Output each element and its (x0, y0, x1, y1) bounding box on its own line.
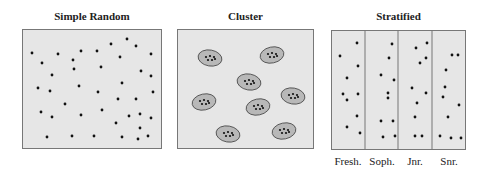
sample-dot (442, 96, 445, 99)
cluster-group (236, 72, 262, 92)
sample-dot (419, 62, 422, 65)
sample-dot (294, 97, 296, 99)
sample-dot (207, 100, 209, 102)
sample-dot (359, 132, 362, 135)
sample-dot (213, 56, 215, 58)
sample-dot (253, 82, 255, 84)
sample-dot (71, 135, 74, 138)
sample-dot (41, 62, 44, 65)
sample-dot (93, 135, 96, 138)
sample-dot (394, 135, 397, 138)
sample-dot (276, 55, 278, 57)
sample-dot (150, 53, 153, 56)
sample-dot (439, 135, 442, 138)
sample-dot (232, 134, 234, 136)
sample-dot (292, 93, 294, 95)
sample-dot (281, 132, 283, 134)
sample-dot (257, 104, 259, 106)
cluster-blob (271, 121, 298, 142)
sample-dot (259, 108, 261, 110)
sample-dot (139, 113, 142, 116)
sample-dot (380, 74, 383, 77)
sample-dot (121, 136, 124, 139)
sample-dot (393, 79, 396, 82)
sample-dot (139, 127, 142, 130)
sample-dot (425, 57, 428, 60)
sample-dot (356, 115, 359, 118)
sample-dot (126, 38, 129, 41)
cluster-group (197, 48, 223, 68)
sample-dot (285, 132, 287, 134)
sample-dot (425, 92, 428, 95)
sample-dot (252, 80, 254, 82)
sample-dot (460, 137, 463, 140)
sample-dot (250, 83, 252, 85)
sample-dot (346, 126, 349, 129)
cluster-blob (197, 48, 223, 68)
cluster-blob (236, 72, 262, 92)
sample-dot (78, 85, 81, 88)
sample-dot (121, 82, 124, 85)
sample-dot (214, 58, 216, 60)
sample-dot (415, 47, 418, 50)
sample-dot (253, 105, 255, 107)
sample-dot (150, 117, 153, 120)
cluster-group (259, 45, 286, 66)
sample-dot (287, 129, 289, 131)
sample-dot (296, 94, 298, 96)
sample-dot (110, 43, 113, 46)
sample-dot (416, 102, 419, 105)
sample-dot (201, 103, 203, 105)
sample-dot (51, 74, 54, 77)
cluster-blob (215, 124, 241, 144)
sample-dot (445, 69, 448, 72)
sample-dot (49, 90, 52, 93)
sample-dot (248, 79, 250, 81)
cluster-blob (259, 45, 286, 66)
cluster-group (280, 86, 306, 106)
sample-dot (135, 45, 138, 48)
sample-dot (101, 109, 104, 112)
sample-dot (391, 43, 394, 46)
sample-dot (388, 57, 391, 60)
sample-dot (152, 91, 155, 94)
sample-dot (128, 115, 131, 118)
sample-dot (411, 87, 414, 90)
sample-dot (357, 65, 360, 68)
sample-dot (205, 56, 207, 58)
sample-dot (421, 135, 424, 138)
sample-dot (458, 104, 461, 107)
sample-dot (223, 132, 225, 134)
sample-dot (140, 70, 143, 73)
sample-dot (342, 93, 345, 96)
sample-dot (356, 42, 359, 45)
sample-dot (346, 77, 349, 80)
sample-dot (80, 114, 83, 117)
sample-dot (269, 56, 271, 58)
sample-dot (387, 97, 390, 100)
sample-dot (414, 116, 417, 119)
cluster-blob (245, 97, 272, 118)
sample-dot (288, 131, 290, 133)
sample-dot (80, 50, 83, 53)
sample-dot (288, 94, 290, 96)
sample-dot (209, 55, 211, 57)
sample-dot (46, 136, 49, 139)
sample-dot (380, 120, 383, 123)
sample-dot (51, 116, 54, 119)
cluster-group (245, 97, 272, 118)
sample-dot (450, 137, 453, 140)
sample-dot (119, 56, 122, 59)
sample-dot (414, 135, 417, 138)
sample-dot (100, 66, 103, 69)
sample-dot (387, 92, 390, 95)
sample-dot (227, 131, 229, 133)
sample-dot (40, 111, 43, 114)
sample-dot (279, 129, 281, 131)
cluster-group (271, 121, 298, 142)
sample-dot (150, 75, 153, 78)
sample-dot (275, 53, 277, 55)
cluster-group (215, 124, 241, 144)
sample-dot (273, 56, 275, 58)
sample-dot (392, 120, 395, 123)
